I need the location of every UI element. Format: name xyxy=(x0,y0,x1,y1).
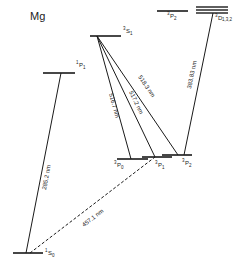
svg-text:2: 2 xyxy=(174,16,177,21)
label-3P0: 3 P 0 xyxy=(114,160,124,170)
svg-text:1: 1 xyxy=(162,165,165,170)
label-transition-383: 383.83 nm xyxy=(186,60,198,89)
label-3P2-upper: 3 P 2 xyxy=(167,11,177,21)
transition-517 xyxy=(97,36,155,157)
label-transition-457: 457.1 nm xyxy=(81,208,105,228)
diagram-title: Mg xyxy=(30,10,45,22)
label-3S1: 3 S 1 xyxy=(123,26,133,36)
label-3D: 3 D 1,3,2 xyxy=(215,13,233,22)
svg-text:0: 0 xyxy=(121,165,124,170)
label-transition-518: 518.3 nm xyxy=(137,74,156,98)
label-transition-516: 516.7 nm xyxy=(108,93,120,119)
label-1P1: 1 P 1 xyxy=(76,60,86,70)
transition-285 xyxy=(26,73,61,253)
label-1S0: 1 S 0 xyxy=(45,248,55,258)
label-3P1: 3 P 1 xyxy=(155,160,165,170)
label-3P2: 3 P 2 xyxy=(182,158,192,168)
svg-text:1: 1 xyxy=(83,65,86,70)
svg-text:0: 0 xyxy=(52,253,55,258)
svg-text:1,3,2: 1,3,2 xyxy=(222,17,233,22)
svg-text:1: 1 xyxy=(130,31,133,36)
svg-text:2: 2 xyxy=(189,163,192,168)
energy-level-diagram: Mg 1 P 1 3 S 1 3 P 2 3 D 1,3,2 3 P 0 3 xyxy=(0,0,243,262)
